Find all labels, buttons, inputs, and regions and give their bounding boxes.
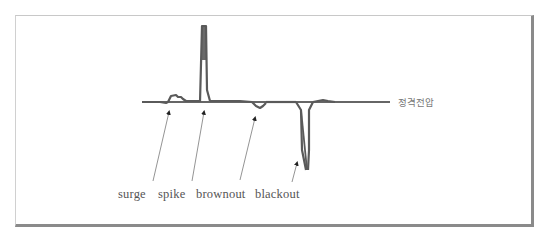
blackout-arrow	[292, 163, 297, 182]
voltage-waveform	[142, 26, 335, 170]
brownout-arrow	[240, 118, 255, 180]
event-label-surge: surge	[118, 187, 146, 202]
spike-arrow	[192, 112, 204, 181]
voltage-waveform-diagram	[0, 0, 549, 239]
event-label-spike: spike	[158, 187, 185, 202]
event-arrows	[153, 112, 297, 182]
event-label-blackout: blackout	[255, 187, 300, 202]
rated-voltage-label: 정격전압	[398, 95, 434, 109]
surge-arrow	[153, 112, 169, 181]
event-label-brownout: brownout	[196, 187, 246, 202]
